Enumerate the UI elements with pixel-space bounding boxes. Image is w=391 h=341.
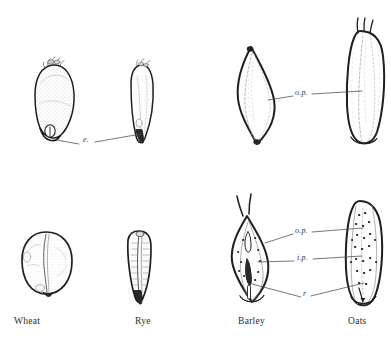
specimen-oats-dorsal — [347, 18, 384, 144]
specimen-barley-dorsal — [238, 47, 275, 145]
specimen-oats-ventral — [346, 201, 382, 305]
caption-barley: Barley — [238, 316, 265, 326]
annotation-outer-palea-bottom: o.p. — [295, 226, 308, 235]
specimen-rye-ventral — [128, 231, 151, 304]
annotation-embryo: e. — [83, 135, 89, 144]
specimen-barley-ventral — [232, 194, 269, 302]
caption-oats: Oats — [348, 316, 367, 326]
specimen-wheat-ventral — [22, 232, 72, 296]
annotation-inner-palea: i.p. — [297, 253, 308, 262]
grain-illustration-figure: e. o.p. o.p. i.p. r Wheat Rye Barley Oat… — [0, 0, 391, 341]
annotation-outer-palea-top: o.p. — [295, 88, 308, 97]
caption-wheat: Wheat — [14, 316, 40, 326]
leader-lines — [56, 91, 364, 297]
specimen-rye-dorsal — [131, 59, 153, 143]
annotation-rachilla: r — [303, 289, 306, 298]
specimen-wheat-dorsal — [35, 57, 74, 141]
illustration-canvas — [0, 0, 391, 341]
caption-rye: Rye — [135, 316, 151, 326]
